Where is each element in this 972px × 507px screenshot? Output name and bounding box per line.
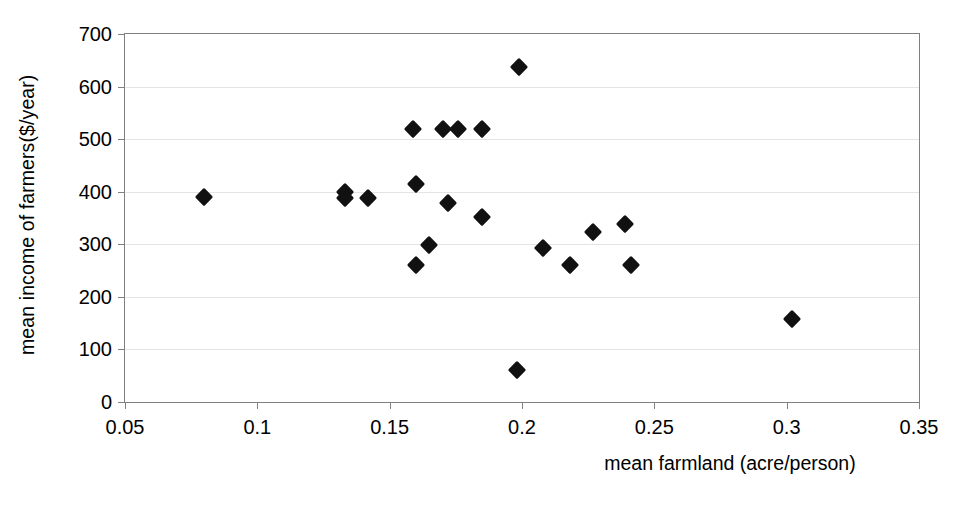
y-axis-title-wrapper: mean income of farmers($/year): [0, 0, 56, 430]
y-axis-tick: [118, 244, 125, 245]
data-point-marker: [449, 119, 467, 137]
data-point-marker: [783, 310, 801, 328]
x-axis-tick: [390, 402, 391, 409]
x-axis-tick-label: 0.2: [508, 416, 536, 439]
y-axis-tick: [118, 87, 125, 88]
y-axis-tick-label: 700: [79, 23, 112, 46]
x-axis-title: mean farmland (acre/person): [520, 452, 940, 475]
x-axis-tick: [919, 402, 920, 409]
scatter-chart-figure: mean income of farmers($/year) mean farm…: [0, 0, 972, 507]
y-axis-tick-label: 400: [79, 180, 112, 203]
gridline-horizontal: [125, 244, 919, 245]
data-point-marker: [195, 188, 213, 206]
y-axis-tick-label: 500: [79, 128, 112, 151]
y-axis-tick: [118, 349, 125, 350]
x-axis-tick-label: 0.15: [370, 416, 409, 439]
data-point-marker: [473, 119, 491, 137]
x-axis-tick-label: 0.25: [635, 416, 674, 439]
gridline-horizontal: [125, 349, 919, 350]
y-axis-tick-label: 600: [79, 75, 112, 98]
data-point-marker: [560, 256, 578, 274]
data-point-marker: [473, 208, 491, 226]
y-axis-title: mean income of farmers($/year): [18, 75, 38, 355]
gridline-horizontal: [125, 87, 919, 88]
data-point-marker: [404, 120, 422, 138]
gridline-horizontal: [125, 192, 919, 193]
x-axis-tick-label: 0.05: [106, 416, 145, 439]
gridline-horizontal: [125, 139, 919, 140]
x-axis-tick: [654, 402, 655, 409]
data-point-marker: [508, 361, 526, 379]
y-axis-tick-label: 200: [79, 285, 112, 308]
y-axis-tick: [118, 297, 125, 298]
y-axis-tick: [118, 402, 125, 403]
x-axis-tick: [787, 402, 788, 409]
data-point-marker: [584, 223, 602, 241]
x-axis-tick-label: 0.35: [900, 416, 939, 439]
plot-area: 01002003004005006007000.050.10.150.20.25…: [124, 33, 920, 403]
x-axis-tick-label: 0.3: [773, 416, 801, 439]
data-point-marker: [616, 215, 634, 233]
y-axis-tick-label: 0: [101, 391, 112, 414]
x-axis-tick: [257, 402, 258, 409]
y-axis-tick-label: 300: [79, 233, 112, 256]
data-point-marker: [534, 239, 552, 257]
x-axis-tick: [522, 402, 523, 409]
gridline-horizontal: [125, 297, 919, 298]
y-axis-tick: [118, 34, 125, 35]
y-axis-tick: [118, 192, 125, 193]
y-axis-tick-label: 100: [79, 338, 112, 361]
data-point-marker: [510, 57, 528, 75]
data-point-marker: [621, 256, 639, 274]
data-point-marker: [420, 236, 438, 254]
data-point-marker: [439, 194, 457, 212]
data-point-marker: [407, 256, 425, 274]
x-axis-tick: [125, 402, 126, 409]
y-axis-tick: [118, 139, 125, 140]
x-axis-tick-label: 0.1: [243, 416, 271, 439]
